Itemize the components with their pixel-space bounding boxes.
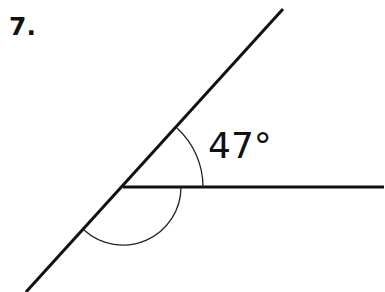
- angle-label: 47°: [208, 125, 272, 166]
- unknown-angle-arc: [84, 187, 181, 245]
- known-angle-arc: [177, 128, 203, 187]
- angle-diagram: 47°: [0, 0, 385, 292]
